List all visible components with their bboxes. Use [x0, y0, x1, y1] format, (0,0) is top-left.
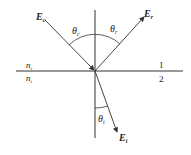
index-lower-label: nt — [26, 73, 33, 84]
index-upper-label: nr — [26, 60, 33, 71]
diagram-canvas: Ec Er Et θc θr θt nr nt 1 2 — [0, 0, 191, 155]
incident-angle-label: θc — [72, 25, 80, 37]
reflected-angle-label: θr — [110, 23, 118, 35]
reflected-field-label: Er — [143, 8, 154, 20]
incident-field-label: Ec — [35, 11, 46, 23]
medium-lower-label: 2 — [159, 74, 164, 84]
transmitted-angle-label: θt — [98, 113, 105, 125]
transmitted-field-label: Et — [118, 132, 128, 144]
transmitted-angle-arc — [95, 106, 108, 108]
medium-upper-label: 1 — [159, 60, 164, 70]
